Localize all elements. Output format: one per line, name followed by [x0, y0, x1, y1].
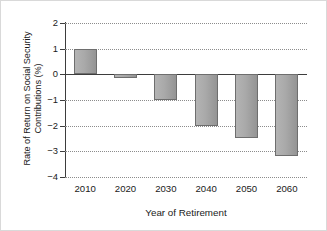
y-tick-label-text: −1 — [18, 95, 58, 104]
y-tick-label: 0 — [13, 69, 58, 79]
x-tick-label-2020: 2020 — [104, 183, 148, 194]
y-tick-label-text: 0 — [18, 69, 58, 78]
gridline — [65, 126, 307, 127]
y-tick-label-text: −2 — [18, 121, 58, 130]
y-tick-label: 2 — [13, 18, 58, 28]
x-axis-title: Year of Retirement — [65, 207, 307, 219]
x-tick-label-2030: 2030 — [144, 183, 188, 194]
x-tick-label-2040: 2040 — [184, 183, 228, 194]
bar-2060 — [275, 74, 298, 156]
gridline — [65, 23, 307, 24]
y-tick-label-text: −4 — [18, 172, 58, 181]
y-tick-label-text: 1 — [18, 44, 58, 53]
x-tick-label-2050: 2050 — [225, 183, 269, 194]
y-tick-label: −2 — [13, 121, 58, 131]
bar-chart-figure: Rate of Return on Social Security Contri… — [0, 0, 327, 231]
x-tick-label-2010: 2010 — [63, 183, 107, 194]
y-tick-label: 1 — [13, 44, 58, 54]
y-tick-label-text: −3 — [18, 146, 58, 155]
gridline — [65, 49, 307, 50]
gridline — [65, 177, 307, 178]
bar-2020 — [114, 74, 137, 78]
plot-area — [65, 23, 307, 177]
y-tick-label: −4 — [13, 172, 58, 182]
gridline — [65, 100, 307, 101]
bar-2050 — [235, 74, 258, 138]
bar-2010 — [74, 49, 97, 75]
y-tick-label: −3 — [13, 146, 58, 156]
bar-2040 — [195, 74, 218, 125]
y-tick-label: −1 — [13, 95, 58, 105]
gridline — [65, 151, 307, 152]
zero-line — [65, 74, 307, 75]
bar-2030 — [154, 74, 177, 100]
x-tick-label-2060: 2060 — [265, 183, 309, 194]
y-tick-label-text: 2 — [18, 18, 58, 27]
